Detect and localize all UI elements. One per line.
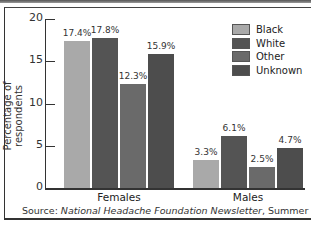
- bar-males-white: [221, 136, 247, 188]
- x-axis-baseline: [45, 188, 305, 190]
- bar-value-label: 17.8%: [88, 25, 122, 35]
- y-tick: [45, 188, 55, 189]
- legend-label: Black: [256, 24, 283, 35]
- y-tick-label: 10: [19, 97, 43, 109]
- legend: Black White Other Unknown: [232, 23, 302, 77]
- legend-swatch-black: [232, 24, 250, 35]
- bar-value-label: 15.9%: [144, 41, 178, 51]
- y-tick-label: 5: [19, 139, 43, 151]
- source-publication: National Headache Foundation Newsletter: [61, 205, 262, 216]
- legend-swatch-unknown: [232, 65, 250, 76]
- bar-males-other: [249, 167, 275, 188]
- legend-label: Unknown: [256, 65, 302, 76]
- y-tick-label: 0: [19, 181, 43, 193]
- bar-females-other: [120, 84, 146, 188]
- y-tick: [45, 146, 55, 147]
- y-tick: [45, 61, 55, 62]
- source-prefix: Source:: [22, 205, 61, 216]
- legend-item-other: Other: [232, 50, 302, 64]
- category-label-males: Males: [208, 191, 288, 203]
- bar-value-label: 3.3%: [189, 147, 223, 157]
- bar-females-black: [64, 41, 90, 188]
- top-border-band: [0, 0, 311, 3]
- y-tick-label: 15: [19, 54, 43, 66]
- source-note: Source: National Headache Foundation New…: [22, 205, 311, 216]
- bar-value-label: 12.3%: [116, 71, 150, 81]
- legend-item-white: White: [232, 37, 302, 51]
- bar-males-black: [193, 160, 219, 188]
- legend-item-unknown: Unknown: [232, 64, 302, 78]
- y-tick: [45, 19, 55, 20]
- bar-females-white: [92, 38, 118, 188]
- legend-label: Other: [256, 51, 284, 62]
- bar-value-label: 6.1%: [217, 123, 251, 133]
- category-label-females: Females: [79, 191, 159, 203]
- bar-value-label: 2.5%: [245, 154, 279, 164]
- bar-males-unknown: [277, 148, 303, 188]
- legend-swatch-white: [232, 38, 250, 49]
- legend-item-black: Black: [232, 23, 302, 37]
- source-suffix: , Summer 1992.: [262, 205, 311, 216]
- y-tick: [45, 104, 55, 105]
- y-tick-label: 20: [19, 12, 43, 24]
- legend-swatch-other: [232, 51, 250, 62]
- legend-label: White: [256, 38, 285, 49]
- bar-value-label: 4.7%: [273, 135, 307, 145]
- bar-females-unknown: [148, 54, 174, 188]
- y-axis-label: Percentage of respondents: [2, 51, 24, 181]
